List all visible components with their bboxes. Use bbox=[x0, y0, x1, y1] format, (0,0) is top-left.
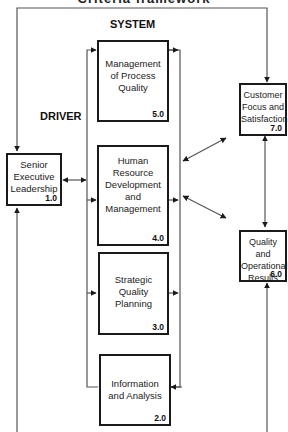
driver-right-bus bbox=[169, 50, 180, 387]
section-label-driver: DRIVER bbox=[40, 110, 82, 122]
box-number: 3.0 bbox=[152, 322, 164, 332]
box-label: Management of Process Quality bbox=[99, 58, 167, 94]
box-label: Senior Executive Leadership bbox=[8, 159, 60, 195]
box-senior-executive-leadership[interactable]: Senior Executive Leadership 1.0 bbox=[6, 153, 62, 206]
box-label: Strategic Quality Planning bbox=[100, 274, 167, 310]
box-label: Information and Analysis bbox=[101, 378, 169, 402]
box-number: 5.0 bbox=[152, 109, 164, 119]
box-customer-focus-satisfaction[interactable]: Customer Focus and Satisfaction 7.0 bbox=[239, 83, 287, 136]
box-management-of-process-quality[interactable]: Management of Process Quality 5.0 bbox=[97, 40, 169, 122]
box-number: 6.0 bbox=[270, 269, 282, 279]
box-quality-operational-results[interactable]: Quality and Operational Results 6.0 bbox=[239, 230, 287, 282]
driver-customer-arrow bbox=[183, 138, 226, 161]
box-number: 4.0 bbox=[152, 233, 164, 243]
section-label-system: SYSTEM bbox=[110, 18, 155, 30]
box-label: Customer Focus and Satisfaction bbox=[241, 89, 285, 125]
box-number: 1.0 bbox=[45, 193, 57, 203]
box-human-resource-development[interactable]: Human Resource Development and Managemen… bbox=[97, 145, 169, 246]
box-number: 7.0 bbox=[270, 123, 282, 133]
box-information-and-analysis[interactable]: Information and Analysis 2.0 bbox=[99, 354, 171, 426]
box-number: 2.0 bbox=[154, 413, 166, 423]
box-label: Human Resource Development and Managemen… bbox=[99, 155, 167, 215]
driver-results-arrow bbox=[183, 196, 226, 218]
box-strategic-quality-planning[interactable]: Strategic Quality Planning 3.0 bbox=[98, 252, 169, 335]
